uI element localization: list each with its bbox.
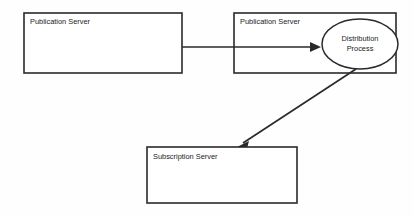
subscription-server-label: Subscription Server [153, 152, 218, 161]
node-distribution-process[interactable]: Distribution Process [322, 19, 398, 69]
connector-distribution-to-subscription [235, 69, 356, 152]
diagram-canvas: Publication Server Publication Server Di… [0, 0, 414, 217]
node-subscription-server[interactable]: Subscription Server [147, 147, 297, 203]
distribution-process-label-line-2: Process [347, 44, 374, 53]
publication-server-right-label: Publication Server [240, 17, 301, 26]
publication-server-left-label: Publication Server [30, 17, 91, 26]
node-publication-server-left[interactable]: Publication Server [24, 13, 182, 73]
distribution-to-subscription-line [243, 69, 356, 143]
diagram-svg: Publication Server Publication Server Di… [0, 0, 414, 217]
distribution-process-label-line-1: Distribution [342, 34, 379, 43]
